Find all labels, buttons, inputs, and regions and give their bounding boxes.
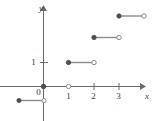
point-1-0-open-endpoint: [66, 84, 70, 88]
tick-marks-group: [40, 63, 119, 91]
segment-3-closed-endpoint: [117, 14, 121, 18]
segment-2-closed-endpoint: [92, 35, 96, 39]
segment-1-closed-endpoint: [66, 60, 70, 64]
graph-canvas: [0, 0, 153, 121]
x-tick-label-3: 3: [114, 92, 123, 101]
x-axis-arrow-icon: [140, 83, 146, 90]
segment-2-open-endpoint: [117, 35, 121, 39]
y-axis-label: y: [39, 4, 43, 13]
step-function-graph: y x 0 1 1 2 3: [0, 0, 153, 121]
y-tick-label-1: 1: [29, 58, 38, 67]
segment-0-closed-endpoint: [17, 98, 21, 102]
x-tick-label-1: 1: [64, 92, 73, 101]
x-axis-label: x: [145, 92, 149, 101]
segment-0-open-endpoint: [42, 98, 46, 102]
origin-tick-label: 0: [34, 88, 43, 97]
segment-1-open-endpoint: [92, 60, 96, 64]
segment-3-open-endpoint: [142, 14, 146, 18]
x-tick-label-2: 2: [89, 92, 98, 101]
